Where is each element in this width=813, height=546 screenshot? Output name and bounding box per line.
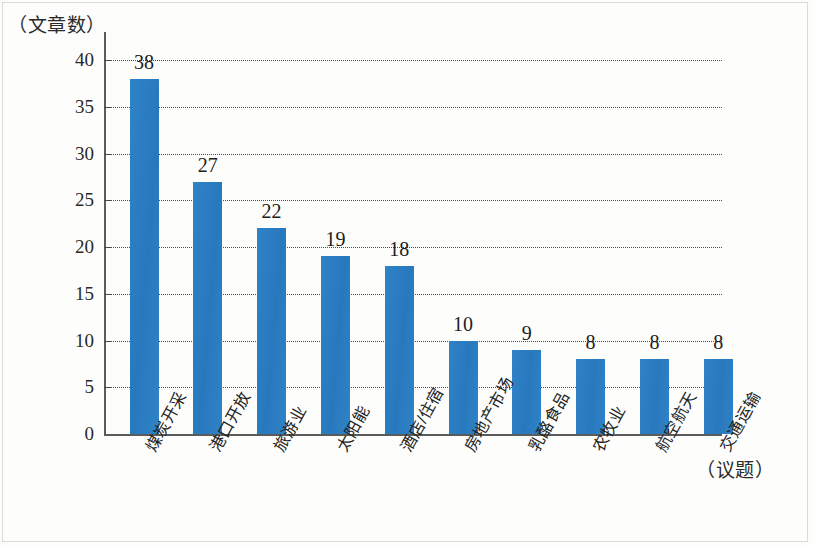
- y-tick-label: 40: [54, 49, 94, 71]
- bar-value-label: 19: [307, 228, 363, 251]
- bar[interactable]: [257, 228, 286, 434]
- y-tick-label: 20: [54, 236, 94, 258]
- y-tick-label: 15: [54, 283, 94, 305]
- y-tick-label: 0: [54, 423, 94, 445]
- bar-value-label: 8: [626, 331, 682, 354]
- bar-value-label: 22: [244, 200, 300, 223]
- y-tick-label: 10: [54, 330, 94, 352]
- bar[interactable]: [193, 182, 222, 434]
- plot-area: [104, 32, 722, 434]
- bar[interactable]: [385, 266, 414, 434]
- x-axis-title: （议题）: [696, 455, 774, 482]
- bar-value-label: 8: [563, 331, 619, 354]
- y-tick-label: 30: [54, 143, 94, 165]
- bar-value-label: 9: [499, 322, 555, 345]
- bar[interactable]: [130, 79, 159, 434]
- bar[interactable]: [321, 256, 350, 434]
- bar-value-label: 27: [180, 154, 236, 177]
- y-tick-label: 35: [54, 96, 94, 118]
- y-tick-label: 5: [54, 376, 94, 398]
- bar-chart: （文章数） （议题） 0510152025303540 382722191810…: [0, 0, 813, 546]
- bar-value-label: 38: [116, 51, 172, 74]
- bar-value-label: 8: [690, 331, 746, 354]
- y-tick-label: 25: [54, 189, 94, 211]
- y-axis-title: （文章数）: [8, 10, 106, 37]
- bar-value-label: 18: [371, 238, 427, 261]
- bar-value-label: 10: [435, 313, 491, 336]
